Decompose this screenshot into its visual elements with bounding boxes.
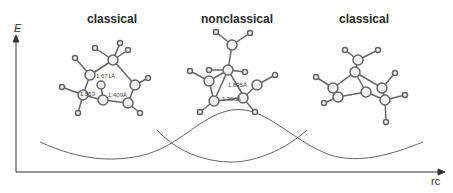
axes xyxy=(13,35,445,175)
distance-label: 1.409Å xyxy=(108,92,127,98)
energy-diagram: 1.671Å 1.553 1.409Å 1.835Å 1.396Å xyxy=(0,0,453,193)
curve-nonclassical xyxy=(157,130,307,162)
curve-classical-left-to-right xyxy=(40,110,423,160)
distance-label: 1.396Å xyxy=(222,96,241,102)
distance-label: 1.553 xyxy=(80,91,96,97)
molecule-right xyxy=(314,48,408,125)
energy-curves xyxy=(40,110,423,162)
distance-label: 1.835Å xyxy=(228,82,247,88)
distance-label: 1.671Å xyxy=(96,73,115,79)
